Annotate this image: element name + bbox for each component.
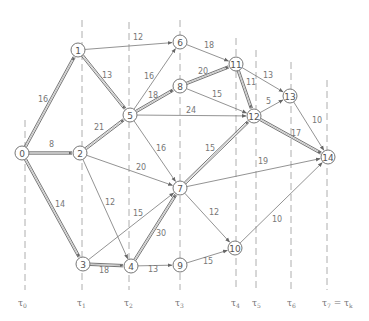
edge-0-3: 14 xyxy=(24,159,80,258)
node-label: 3 xyxy=(80,260,86,270)
edge-weight-label: 14 xyxy=(55,200,65,209)
edge-weight-label: 5 xyxy=(266,97,271,106)
node-label: 6 xyxy=(177,38,183,48)
edge-6-11: 18 xyxy=(187,41,229,61)
edge-weight-label: 19 xyxy=(258,157,268,166)
node-label: 12 xyxy=(248,112,259,122)
stage-label-0: τ0 xyxy=(18,298,27,309)
edge-weight-label: 11 xyxy=(246,78,256,87)
edge-weight-label: 18 xyxy=(99,266,109,275)
stage-labels: τ0τ1τ2τ3τ4τ5τ6τ7 = τk xyxy=(18,298,353,309)
node-12: 12 xyxy=(247,109,261,123)
node-5: 5 xyxy=(123,108,137,122)
node-0: 0 xyxy=(15,146,29,160)
edge-3-7: 15 xyxy=(89,193,174,260)
edge-2-5: 21 xyxy=(85,119,125,150)
node-1: 1 xyxy=(71,43,85,57)
edge-5-7: 16 xyxy=(134,121,176,182)
edge-weight-label: 21 xyxy=(94,123,104,132)
edge-7-10: 12 xyxy=(185,193,230,242)
stage-label-1: τ1 xyxy=(77,298,86,309)
edge-4-7: 30 xyxy=(134,194,177,261)
node-11: 11 xyxy=(229,57,243,71)
node-label: 7 xyxy=(177,184,183,194)
edge-weight-label: 15 xyxy=(212,90,222,99)
edge-11-12: 11 xyxy=(237,70,256,109)
edge-7-14: 19 xyxy=(187,157,320,187)
edge-weight-label: 13 xyxy=(102,71,112,80)
node-label: 10 xyxy=(229,244,241,254)
node-label: 9 xyxy=(177,261,183,271)
edges: 1681412132120121815301316182416182015151… xyxy=(24,33,323,275)
edge-weight-label: 18 xyxy=(148,91,158,100)
edge-0-1: 16 xyxy=(24,56,75,147)
node-9: 9 xyxy=(173,258,187,272)
edge-weight-label: 18 xyxy=(204,41,214,50)
edge-weight-label: 15 xyxy=(203,257,213,266)
edge-5-8: 18 xyxy=(135,89,173,113)
edge-weight-label: 20 xyxy=(136,163,146,172)
edge-weight-label: 12 xyxy=(105,198,115,207)
stage-label-4: τ4 xyxy=(231,298,240,309)
edge-5-6: 16 xyxy=(134,49,176,110)
node-2: 2 xyxy=(73,146,87,160)
edge-10-14: 10 xyxy=(240,163,322,244)
edge-weight-label: 13 xyxy=(148,265,158,274)
edge-weight-label: 17 xyxy=(291,129,301,138)
edge-1-5: 13 xyxy=(81,55,126,110)
edge-13-14: 10 xyxy=(294,102,324,150)
node-label: 14 xyxy=(322,153,334,163)
edge-weight-label: 16 xyxy=(38,95,48,104)
node-4: 4 xyxy=(124,259,138,273)
node-13: 13 xyxy=(283,89,297,103)
edge-8-11: 20 xyxy=(186,66,229,85)
edge-weight-label: 12 xyxy=(133,33,143,42)
edge-weight-label: 16 xyxy=(144,72,154,81)
node-label: 5 xyxy=(127,111,133,121)
edge-2-4: 12 xyxy=(83,159,128,258)
node-label: 4 xyxy=(128,262,134,272)
edge-weight-label: 10 xyxy=(312,116,322,125)
node-label: 11 xyxy=(230,60,241,70)
stage-label-7: τ7 = τk xyxy=(322,298,353,309)
edge-0-2: 8 xyxy=(29,140,72,154)
edge-3-4: 18 xyxy=(90,263,123,275)
edge-4-9: 13 xyxy=(138,265,172,274)
node-7: 7 xyxy=(173,181,187,195)
node-label: 1 xyxy=(75,46,81,56)
edge-weight-label: 8 xyxy=(49,140,54,149)
edge-2-7: 20 xyxy=(87,155,173,185)
edge-7-12: 15 xyxy=(184,121,249,184)
edge-weight-label: 20 xyxy=(198,67,208,76)
stage-label-3: τ3 xyxy=(175,298,184,309)
node-3: 3 xyxy=(76,257,90,271)
edge-weight-label: 15 xyxy=(133,209,143,218)
network-diagram: 1681412132120121815301316182416182015151… xyxy=(0,0,369,321)
edge-5-12: 24 xyxy=(137,106,246,116)
edge-weight-label: 16 xyxy=(156,144,166,153)
edge-weight-label: 30 xyxy=(156,229,166,238)
stage-label-2: τ2 xyxy=(124,298,133,309)
node-label: 8 xyxy=(177,82,183,92)
node-10: 10 xyxy=(228,241,242,255)
edge-weight-label: 13 xyxy=(263,71,273,80)
edge-weight-label: 10 xyxy=(272,215,282,224)
node-label: 2 xyxy=(77,149,83,159)
stage-lines xyxy=(25,20,327,290)
node-8: 8 xyxy=(173,79,187,93)
stage-label-5: τ5 xyxy=(252,298,261,309)
edge-weight-label: 12 xyxy=(209,208,219,217)
edge-12-13: 5 xyxy=(260,97,283,113)
node-6: 6 xyxy=(173,35,187,49)
node-14: 14 xyxy=(321,150,335,164)
edge-1-6: 12 xyxy=(85,33,172,49)
edge-weight-label: 24 xyxy=(186,106,196,115)
stage-label-6: τ6 xyxy=(287,298,296,309)
edge-weight-label: 15 xyxy=(205,144,215,153)
node-label: 13 xyxy=(284,92,295,102)
edge-9-10: 15 xyxy=(187,250,228,266)
node-label: 0 xyxy=(19,149,25,159)
